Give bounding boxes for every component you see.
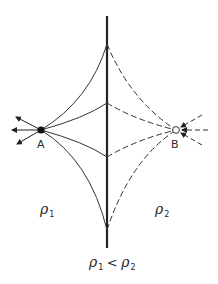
region-rho1-label: ρ1 [40,202,54,219]
subscript: 2 [130,263,135,272]
point-b-label: B [171,139,179,150]
region-rho2-label: ρ2 [155,202,169,219]
point-a-label: A [37,139,45,150]
subscript: 1 [49,210,54,219]
rho-symbol: ρ [121,254,129,270]
relation-symbol: < [107,255,118,270]
point-a-marker [37,126,44,133]
rho-symbol: ρ [89,254,97,270]
rho-symbol: ρ [40,201,48,217]
point-b-marker [173,127,180,134]
subscript: 1 [98,263,103,272]
subscript: 2 [164,210,169,219]
condition-label: ρ1 < ρ2 [89,255,136,272]
sink-arrows [181,115,208,145]
diagram-canvas [0,0,218,284]
rho-symbol: ρ [155,201,163,217]
